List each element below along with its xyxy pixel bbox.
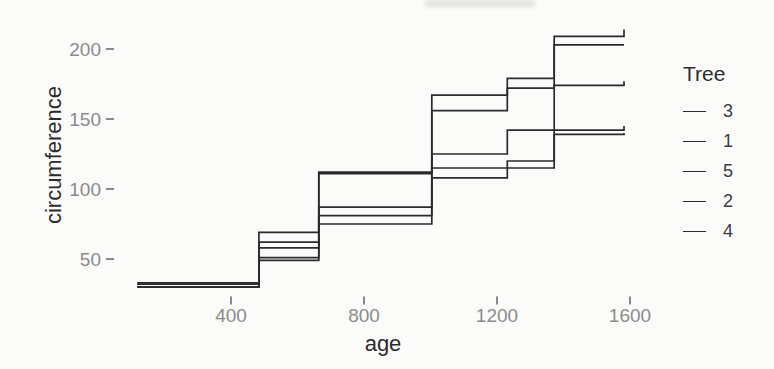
legend-items: 31524 xyxy=(683,96,733,246)
y-axis-title: circumference xyxy=(41,86,67,224)
legend-item-tree-5: 5 xyxy=(683,156,733,186)
legend-item-label: 2 xyxy=(723,191,733,212)
x-axis-tick-label: 800 xyxy=(348,305,380,326)
y-axis-tick-label: 50 xyxy=(80,249,101,270)
step-line-tree-1 xyxy=(137,126,624,287)
legend-item-tree-3: 3 xyxy=(683,96,733,126)
legend-item-tree-2: 2 xyxy=(683,186,733,216)
legend-item-label: 5 xyxy=(723,161,733,182)
legend-key-line xyxy=(683,141,706,142)
step-line-tree-3 xyxy=(137,133,624,287)
x-axis-tick-label: 1200 xyxy=(476,305,518,326)
legend-item-label: 3 xyxy=(723,101,733,122)
y-axis-tick-label: 200 xyxy=(69,39,101,60)
plot-area: 4008001200160050100150200 xyxy=(0,0,774,369)
legend-item-label: 4 xyxy=(723,221,733,242)
step-line-tree-4 xyxy=(137,29,624,284)
legend-item-tree-1: 1 xyxy=(683,126,733,156)
legend-title: Tree xyxy=(683,62,733,86)
step-line-tree-2 xyxy=(137,45,624,283)
y-axis-tick-label: 100 xyxy=(69,179,101,200)
y-axis-tick-label: 150 xyxy=(69,109,101,130)
x-axis-tick-label: 1600 xyxy=(609,305,651,326)
legend-key-line xyxy=(683,171,706,172)
legend-key-line xyxy=(683,231,706,232)
legend: Tree 31524 xyxy=(683,62,733,246)
orange-growth-step-chart: 4008001200160050100150200 age circumfere… xyxy=(0,0,774,369)
legend-key-line xyxy=(683,201,706,202)
legend-item-label: 1 xyxy=(723,131,733,152)
legend-item-tree-4: 4 xyxy=(683,216,733,246)
step-line-tree-5 xyxy=(137,81,624,287)
legend-key-line xyxy=(683,111,706,112)
x-axis-tick-label: 400 xyxy=(215,305,247,326)
x-axis-title: age xyxy=(365,331,402,357)
